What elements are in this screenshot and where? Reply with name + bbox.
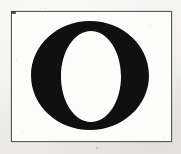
scan-speckle bbox=[96, 147, 98, 149]
glyph-stage bbox=[11, 11, 172, 142]
letter-specimen-canvas bbox=[0, 0, 181, 154]
capital-letter-o-glyph bbox=[31, 21, 149, 130]
letter-o-bowl-path bbox=[31, 21, 149, 130]
capital-letter-o-vector bbox=[31, 21, 149, 130]
scan-speckle bbox=[128, 150, 129, 151]
scan-speckle bbox=[45, 8, 46, 9]
